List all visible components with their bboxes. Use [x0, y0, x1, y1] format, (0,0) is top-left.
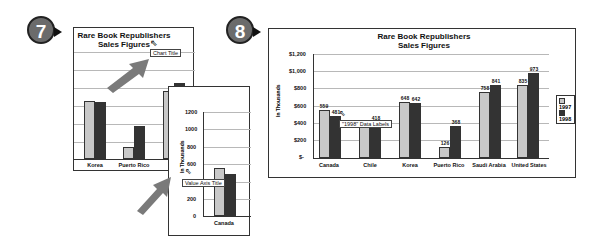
chart-title[interactable]: Rare Book Republishers Sales Figures: [74, 31, 174, 49]
category-label: United States: [506, 162, 552, 168]
gridline: [203, 147, 251, 148]
legend-label: 1998: [559, 116, 571, 122]
bar-chile-1997[interactable]: [359, 127, 370, 158]
category-label: Korea: [392, 162, 428, 168]
step8-chart-panel: Rare Book Republishers Sales Figures In …: [268, 28, 576, 178]
value-axis: [203, 112, 204, 216]
chart-title-line2: Sales Figures: [369, 41, 479, 50]
category-label: Chile: [352, 162, 388, 168]
mouse-pointer-icon: ⇖: [150, 38, 158, 48]
bar-saudiarabia-1997[interactable]: [479, 92, 490, 158]
bar-canada-1998[interactable]: [225, 174, 236, 216]
bar-unitedstates-1997[interactable]: [517, 85, 528, 158]
category-label: Canada: [311, 162, 347, 168]
category-label: Puerto Rico: [118, 162, 150, 168]
category-axis: [313, 158, 549, 159]
data-label: 126: [435, 140, 455, 146]
bar-unitedstates-1998[interactable]: [528, 73, 539, 158]
bar-saudiarabia-1998[interactable]: [490, 85, 501, 158]
pointer-arrow-icon: [105, 58, 150, 93]
bar-canada-1997[interactable]: [319, 110, 330, 158]
gridline: [313, 106, 549, 107]
bar-korea-1998[interactable]: [410, 103, 421, 158]
data-label: 368: [446, 119, 466, 125]
pointer-arrow-icon: [135, 175, 173, 215]
bar-puertorico-1997[interactable]: [439, 147, 450, 158]
category-label: Canada: [209, 220, 239, 226]
tick-label: $200: [294, 137, 306, 143]
data-label: 642: [406, 96, 426, 102]
mouse-pointer-icon: ⇖: [185, 167, 192, 176]
data-label: 835: [513, 78, 533, 84]
bar-canada-1997[interactable]: [214, 168, 225, 216]
gridline: [313, 140, 549, 141]
tick-label: $1,200: [289, 51, 306, 57]
category-label: Korea: [80, 162, 110, 168]
bar-puertorico-1997[interactable]: [123, 147, 134, 159]
legend-item-1998: 1998: [559, 110, 572, 123]
tick-label: $600: [294, 103, 306, 109]
value-axis-inset-panel: 1200 1000 800 600 400 200 0 Canada In Th…: [168, 86, 250, 236]
tooltip-value-axis-title: Value Axis Title: [182, 179, 225, 187]
step-number: 8: [235, 21, 246, 42]
tick-label: $400: [294, 120, 306, 126]
chart-title[interactable]: Rare Book Republishers Sales Figures: [369, 32, 479, 50]
legend-item-1997: 1997: [559, 97, 572, 110]
bar-puertorico-1998[interactable]: [134, 126, 145, 159]
chart-title-line1: Rare Book Republishers: [369, 32, 479, 41]
bar-korea-1997[interactable]: [84, 101, 95, 159]
step-number: 7: [36, 21, 47, 42]
tick-label: $800: [294, 85, 306, 91]
tick-label: 0: [193, 213, 196, 219]
chart-title-line2: Sales Figures: [74, 40, 174, 49]
gridline: [203, 112, 251, 113]
step-7-badge: 7: [27, 16, 55, 44]
bar-korea-1997[interactable]: [399, 102, 410, 158]
data-label: 841: [486, 78, 506, 84]
tick-label: 1200: [185, 109, 197, 115]
data-label: 758: [475, 85, 495, 91]
step-8-badge: 8: [226, 16, 254, 44]
legend-label: 1997: [559, 104, 571, 110]
tick-label: 800: [187, 144, 196, 150]
category-axis: [203, 216, 251, 217]
chart-title-line1: Rare Book Republishers: [74, 31, 174, 40]
tooltip-data-labels: "1998" Data Labels: [339, 120, 392, 128]
value-axis-title[interactable]: In Thousands: [275, 85, 281, 118]
data-label: 973: [524, 66, 544, 72]
tick-label: 1000: [185, 126, 197, 132]
tick-label: $1,000: [289, 68, 306, 74]
tick-label: $-: [299, 154, 304, 160]
gridline: [313, 88, 549, 89]
gridline: [313, 71, 549, 72]
tooltip-chart-title: Chart Title: [150, 49, 181, 57]
gridline: [203, 129, 251, 130]
category-label: Saudi Arabia: [467, 162, 511, 168]
gridline: [313, 54, 549, 55]
tick-label: 200: [187, 196, 196, 202]
gridline: [203, 164, 251, 165]
bar-korea-1998[interactable]: [95, 102, 106, 159]
mouse-pointer-icon: ⇖: [339, 109, 346, 118]
category-label: Puerto Rico: [429, 162, 469, 168]
chart-legend[interactable]: 1997 1998: [556, 95, 575, 124]
